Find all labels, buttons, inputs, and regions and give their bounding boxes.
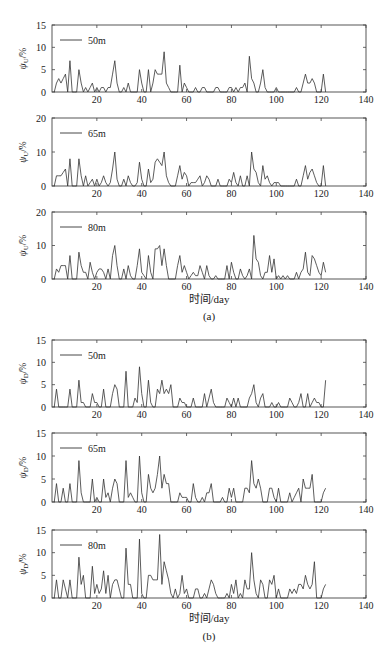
y-label-unit: /% xyxy=(18,141,28,152)
y-tick-label: 0 xyxy=(41,593,46,604)
y-tick-label: 5 xyxy=(41,474,46,485)
x-tick-label: 80 xyxy=(226,600,236,611)
y-tick-label: 0 xyxy=(41,274,46,285)
x-tick-label: 120 xyxy=(314,94,329,105)
x-tick-label: 100 xyxy=(269,188,284,199)
legend-label: 80m xyxy=(88,540,106,551)
y-label-unit: /% xyxy=(18,553,28,564)
x-tick-label: 60 xyxy=(182,281,192,292)
x-tick-label: 120 xyxy=(314,504,329,515)
x-tick-label: 40 xyxy=(137,188,147,199)
x-tick-label: 140 xyxy=(359,600,374,611)
y-tick-label: 0 xyxy=(41,497,46,508)
y-label-unit: /% xyxy=(18,363,28,374)
y-tick-label: 5 xyxy=(41,64,46,75)
x-axis-label-a: 时间/day xyxy=(189,293,230,305)
data-series-line xyxy=(54,456,325,502)
y-tick-label: 10 xyxy=(36,147,46,158)
x-tick-label: 20 xyxy=(92,281,102,292)
chart-panel: 20406080100120140051015ψD/%65m xyxy=(18,428,374,516)
y-tick-label: 10 xyxy=(36,42,46,53)
x-tick-label: 20 xyxy=(92,504,102,515)
chart-panel: 2040608010012014001020ψU/%65m xyxy=(18,113,374,200)
x-tick-label: 140 xyxy=(359,281,374,292)
y-tick-label: 0 xyxy=(41,87,46,98)
x-tick-label: 100 xyxy=(269,281,284,292)
caption-a: (a) xyxy=(203,310,216,323)
x-tick-label: 140 xyxy=(359,188,374,199)
x-tick-label: 20 xyxy=(92,409,102,420)
x-tick-label: 40 xyxy=(137,94,147,105)
y-axis-label: ψU/% xyxy=(18,141,30,163)
legend-label: 65m xyxy=(88,443,106,454)
x-tick-label: 100 xyxy=(269,409,284,420)
x-tick-label: 80 xyxy=(226,188,236,199)
y-tick-label: 15 xyxy=(36,20,46,31)
y-label-unit: /% xyxy=(18,457,28,468)
y-tick-label: 0 xyxy=(41,181,46,192)
y-axis-label: ψD/% xyxy=(18,363,30,385)
x-tick-label: 100 xyxy=(269,504,284,515)
data-series-line xyxy=(54,152,325,186)
x-tick-label: 40 xyxy=(137,281,147,292)
chart-panel: 20406080100120140051015ψD/%50m xyxy=(18,335,374,421)
x-tick-label: 120 xyxy=(314,281,329,292)
x-tick-label: 40 xyxy=(137,600,147,611)
x-tick-label: 140 xyxy=(359,94,374,105)
x-tick-label: 20 xyxy=(92,600,102,611)
x-tick-label: 120 xyxy=(314,600,329,611)
y-tick-label: 15 xyxy=(36,428,46,439)
caption-b: (b) xyxy=(203,630,216,643)
x-tick-label: 140 xyxy=(359,504,374,515)
panels-container: 20406080100120140051015ψU/%50m2040608010… xyxy=(18,20,374,612)
x-tick-label: 20 xyxy=(92,188,102,199)
y-tick-label: 20 xyxy=(36,207,46,218)
y-tick-label: 15 xyxy=(36,335,46,346)
x-tick-label: 60 xyxy=(182,504,192,515)
chart-panel: 20406080100120140051015ψU/%50m xyxy=(18,20,374,106)
x-tick-label: 40 xyxy=(137,409,147,420)
x-tick-label: 20 xyxy=(92,94,102,105)
y-axis-label: ψU/% xyxy=(18,235,30,257)
y-tick-label: 10 xyxy=(36,547,46,558)
y-tick-label: 10 xyxy=(36,357,46,368)
y-axis-label: ψD/% xyxy=(18,457,30,479)
x-tick-label: 80 xyxy=(226,281,236,292)
x-tick-label: 60 xyxy=(182,600,192,611)
x-tick-label: 60 xyxy=(182,409,192,420)
legend-label: 80m xyxy=(88,222,106,233)
y-axis-label: ψU/% xyxy=(18,48,30,70)
legend-label: 50m xyxy=(88,35,106,46)
y-tick-label: 5 xyxy=(41,570,46,581)
legend-label: 65m xyxy=(88,128,106,139)
x-tick-label: 80 xyxy=(226,409,236,420)
y-label-unit: /% xyxy=(18,235,28,246)
data-series-line xyxy=(54,52,325,92)
data-series-line xyxy=(54,235,325,279)
x-tick-label: 80 xyxy=(226,504,236,515)
y-tick-label: 15 xyxy=(36,525,46,536)
x-tick-label: 60 xyxy=(182,188,192,199)
y-tick-label: 5 xyxy=(41,379,46,390)
chart-panel: 2040608010012014001020ψU/%80m xyxy=(18,207,374,293)
x-tick-label: 120 xyxy=(314,409,329,420)
y-tick-label: 10 xyxy=(36,240,46,251)
x-tick-label: 100 xyxy=(269,94,284,105)
chart-panel: 20406080100120140051015ψD/%80m xyxy=(18,525,374,612)
y-tick-label: 10 xyxy=(36,451,46,462)
x-tick-label: 40 xyxy=(137,504,147,515)
y-label-unit: /% xyxy=(18,48,28,59)
y-tick-label: 20 xyxy=(36,113,46,124)
x-axis-label-b: 时间/day xyxy=(189,612,230,624)
x-tick-label: 60 xyxy=(182,94,192,105)
figure: 20406080100120140051015ψU/%50m2040608010… xyxy=(0,0,390,656)
legend-label: 50m xyxy=(88,350,106,361)
x-tick-label: 140 xyxy=(359,409,374,420)
y-axis-label: ψD/% xyxy=(18,553,30,575)
x-tick-label: 100 xyxy=(269,600,284,611)
y-tick-label: 0 xyxy=(41,402,46,413)
x-tick-label: 80 xyxy=(226,94,236,105)
data-series-line xyxy=(54,367,325,407)
x-tick-label: 120 xyxy=(314,188,329,199)
